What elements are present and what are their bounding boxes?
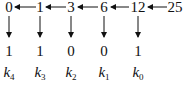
quotient-3: 3 (67, 0, 75, 15)
quotient-6: 6 (100, 0, 108, 15)
remainder-k4: 1 (5, 44, 13, 59)
label-k0: k0 (132, 65, 143, 85)
quotient-25: 25 (168, 0, 183, 15)
remainder-k3: 1 (36, 44, 44, 59)
arrows-layer (0, 0, 187, 87)
remainder-k1: 0 (100, 44, 108, 59)
label-k1: k1 (98, 65, 109, 85)
label-k4: k4 (3, 65, 14, 85)
quotient-12: 12 (131, 0, 146, 15)
quotient-1: 1 (36, 0, 44, 15)
quotient-0: 0 (5, 0, 13, 15)
remainder-k2: 0 (67, 44, 75, 59)
remainder-k0: 1 (134, 44, 142, 59)
label-k3: k3 (34, 65, 45, 85)
label-k2: k2 (65, 65, 76, 85)
